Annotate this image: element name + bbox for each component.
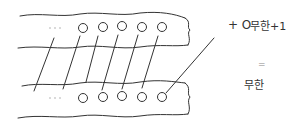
bottom-circle <box>99 93 108 102</box>
bottom-circle <box>118 92 127 101</box>
top-ellipsis <box>49 27 61 29</box>
bottom-ellipsis <box>49 97 61 99</box>
mapping-line <box>63 36 80 89</box>
top-band-right-edge <box>185 18 190 45</box>
bottom-band-right-edge <box>185 83 190 114</box>
equation-operator: = <box>258 60 266 69</box>
equation-left: 무한+1 <box>250 21 286 32</box>
bottom-circle <box>138 93 147 102</box>
top-circle <box>99 23 108 32</box>
top-band-upper-edge <box>20 12 185 18</box>
bottom-circle <box>158 93 167 102</box>
mapping-line <box>142 36 158 88</box>
top-band-lower-edge <box>18 45 188 48</box>
mapping-line <box>34 38 54 91</box>
top-circle <box>158 23 167 32</box>
top-circle <box>118 22 127 31</box>
bottom-circle <box>79 94 88 103</box>
mapping-line <box>122 35 138 89</box>
top-circle <box>79 24 88 33</box>
mapping-line <box>86 36 98 82</box>
equation-right: 무한 <box>244 80 264 91</box>
bottom-band-lower-edge <box>18 114 188 118</box>
extra-mapping-line <box>166 38 214 93</box>
top-circle <box>138 23 147 32</box>
plus-zero-label: + O <box>228 19 251 31</box>
mapping-line <box>102 35 118 90</box>
